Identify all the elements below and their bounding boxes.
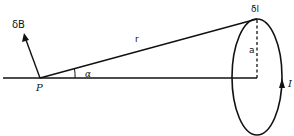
- dl-label: δl: [251, 4, 259, 14]
- dB-label: δB: [12, 19, 25, 30]
- dB-arrow: [22, 33, 40, 78]
- loop-field-diagram: δB r α P δl a I: [0, 0, 294, 136]
- a-label: a: [249, 45, 255, 55]
- alpha-label: α: [85, 69, 91, 79]
- r-label: r: [135, 34, 139, 44]
- I-label: I: [287, 78, 293, 89]
- P-label: P: [35, 82, 43, 93]
- alpha-arc: [75, 69, 76, 78]
- r-line: [40, 19, 257, 78]
- current-direction-arrow-icon: [279, 78, 285, 88]
- arrowhead-icon: [22, 33, 29, 42]
